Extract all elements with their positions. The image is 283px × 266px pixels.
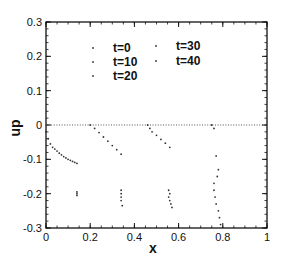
y-axis-label: up xyxy=(7,119,23,136)
data-points xyxy=(45,124,221,225)
svg-text:1: 1 xyxy=(264,231,270,243)
svg-text:0: 0 xyxy=(36,119,42,131)
svg-text:-0.1: -0.1 xyxy=(23,153,42,165)
legend-item-t40: t=40 xyxy=(176,54,201,68)
x-axis: 00.20.40.60.81 xyxy=(43,22,270,243)
svg-text:0.6: 0.6 xyxy=(171,231,186,243)
svg-text:-0.2: -0.2 xyxy=(23,188,42,200)
svg-text:0.2: 0.2 xyxy=(27,50,42,62)
x-axis-label: x xyxy=(149,240,157,256)
legend: t=0 t=10 t=20 t=30 t=40 xyxy=(92,39,201,83)
legend-item-t10: t=10 xyxy=(113,55,138,69)
legend-item-t20: t=20 xyxy=(113,69,138,83)
svg-text:-0.3: -0.3 xyxy=(23,222,42,234)
legend-item-t0: t=0 xyxy=(113,41,131,55)
svg-text:0.1: 0.1 xyxy=(27,85,42,97)
svg-text:0.3: 0.3 xyxy=(27,16,42,28)
svg-text:0.8: 0.8 xyxy=(215,231,230,243)
svg-text:0.2: 0.2 xyxy=(83,231,98,243)
svg-text:0.4: 0.4 xyxy=(127,231,142,243)
svg-text:0: 0 xyxy=(43,231,49,243)
legend-item-t30: t=30 xyxy=(176,39,201,53)
chart: 0.30.20.10-0.1-0.2-0.3 00.20.40.60.81 x … xyxy=(0,0,283,266)
